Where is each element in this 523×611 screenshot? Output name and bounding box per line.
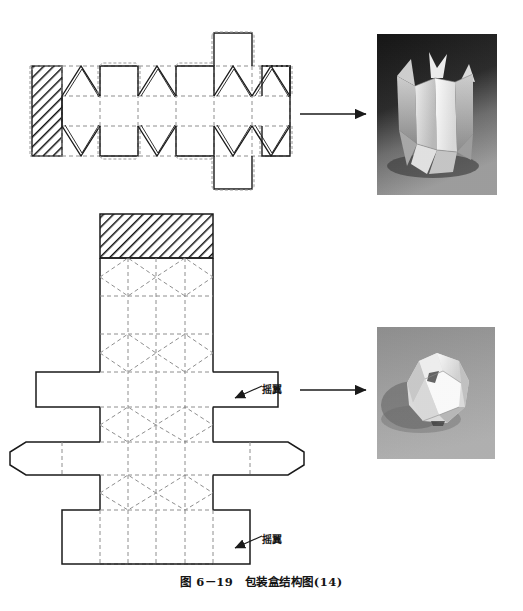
leader-line-flap-lower — [235, 536, 262, 548]
dieline-top — [30, 32, 292, 190]
glue-flap-hatched-bottom — [100, 214, 213, 258]
right-panels-dashed-top — [260, 66, 292, 156]
finished-box-tall-illustration — [377, 34, 497, 195]
flap-label-upper: 摇翼 — [262, 381, 282, 396]
side-flap-middle-right — [213, 442, 304, 475]
leader-line-flap-upper — [235, 386, 262, 398]
flap-label-lower: 摇翼 — [262, 531, 282, 546]
dieline-bottom — [10, 214, 304, 564]
figure-page: 摇翼 摇翼 图 6－19 包装盒结构图(14) — [0, 0, 523, 611]
side-flap-middle-left — [10, 442, 100, 475]
figure-caption: 图 6－19 包装盒结构图(14) — [0, 573, 523, 589]
upper-flaps-top — [62, 32, 290, 97]
finished-box-round-illustration — [377, 327, 495, 459]
fold-grid-bottom — [100, 258, 213, 564]
glue-flap-hatched-top — [30, 66, 62, 156]
side-flap-upper-left — [36, 372, 100, 407]
lower-flaps-top — [62, 125, 290, 190]
right-panels-top — [262, 66, 290, 156]
finished-box-tall-photo — [373, 30, 501, 199]
finished-box-round-photo — [373, 323, 499, 463]
